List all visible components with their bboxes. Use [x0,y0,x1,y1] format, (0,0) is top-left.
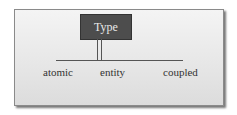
child-atomic: atomic [43,66,73,78]
child-entity: entity [100,66,125,78]
connector-line-right [101,39,102,60]
type-node: Type [80,14,132,40]
connector-line-left [97,39,98,60]
child-coupled: coupled [163,66,198,78]
branch-line [56,60,183,61]
